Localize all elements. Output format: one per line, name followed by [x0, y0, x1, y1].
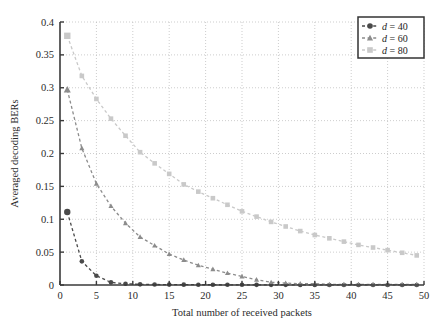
x-tick-label: 0	[57, 290, 62, 301]
y-tick-label: 0.3	[41, 82, 54, 93]
data-point-marker	[400, 250, 405, 255]
x-tick-label: 30	[273, 290, 284, 301]
data-point-marker	[196, 189, 201, 194]
chart-figure: 00.050.10.150.20.250.30.350.405101520253…	[0, 0, 438, 328]
x-tick-label: 50	[419, 290, 430, 301]
data-point-marker	[80, 74, 85, 79]
data-point-marker	[109, 280, 114, 285]
data-point-marker	[414, 253, 419, 258]
data-point-marker	[167, 172, 172, 177]
data-point-marker	[269, 220, 274, 225]
y-tick-label: 0.25	[36, 115, 54, 126]
data-point-marker	[181, 182, 186, 187]
data-point-marker	[94, 273, 99, 278]
x-tick-label: 15	[164, 290, 175, 301]
data-point-marker	[225, 202, 230, 207]
data-point-marker	[123, 133, 128, 138]
x-axis-title: Total number of received packets	[172, 307, 312, 318]
data-point-marker	[80, 259, 85, 264]
data-point-marker	[138, 150, 143, 155]
data-point-marker	[298, 229, 303, 234]
data-point-marker	[240, 209, 245, 214]
data-point-marker	[94, 97, 99, 102]
y-tick-label: 0.35	[36, 49, 54, 60]
data-point-marker	[152, 161, 157, 166]
legend-label: d = 80	[382, 45, 408, 56]
y-tick-label: 0	[49, 280, 54, 291]
data-point-marker	[64, 209, 70, 215]
y-tick-label: 0.15	[36, 181, 54, 192]
data-point-marker	[254, 214, 259, 219]
x-tick-label: 45	[382, 290, 393, 301]
data-point-marker	[313, 233, 318, 238]
y-tick-label: 0.4	[41, 17, 55, 28]
y-tick-label: 0.1	[41, 214, 54, 225]
data-point-marker	[64, 33, 70, 39]
x-tick-label: 40	[346, 290, 357, 301]
legend-label: d = 60	[382, 33, 408, 44]
x-tick-label: 35	[310, 290, 321, 301]
data-point-marker	[367, 47, 373, 53]
data-point-marker	[356, 243, 361, 248]
data-point-marker	[367, 23, 373, 29]
data-point-marker	[109, 116, 114, 121]
x-tick-label: 5	[94, 290, 99, 301]
y-tick-label: 0.2	[41, 148, 54, 159]
data-point-marker	[371, 245, 376, 250]
data-point-marker	[211, 196, 216, 201]
data-point-marker	[385, 248, 390, 253]
data-point-marker	[327, 236, 332, 241]
x-tick-label: 25	[237, 290, 248, 301]
x-tick-label: 20	[200, 290, 211, 301]
data-point-marker	[342, 239, 347, 244]
y-tick-label: 0.05	[36, 247, 54, 258]
x-tick-label: 10	[128, 290, 139, 301]
data-point-marker	[283, 224, 288, 229]
legend-label: d = 40	[382, 21, 408, 32]
legend[interactable]: d = 40d = 60d = 80	[358, 17, 424, 58]
y-axis-title: Averaged decoding BERs	[9, 99, 20, 207]
